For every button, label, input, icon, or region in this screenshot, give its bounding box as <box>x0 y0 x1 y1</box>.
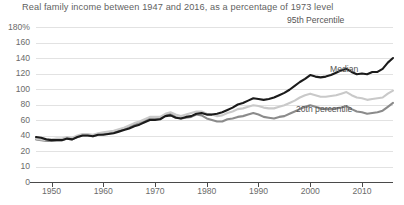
line-median <box>36 91 393 141</box>
y-axis-label: 10 <box>0 161 30 171</box>
x-axis-label: 1990 <box>238 186 278 196</box>
x-axis-label: 1980 <box>187 186 227 196</box>
series-label-20th-percentile: 20th percentile <box>296 104 352 114</box>
y-axis-label: 140 <box>0 53 30 63</box>
x-axis-label: 1960 <box>83 186 123 196</box>
series-label-median: Median <box>330 64 358 74</box>
y-axis-label: 40 <box>0 130 30 140</box>
y-axis-label: 180% <box>0 22 30 32</box>
y-axis-label: 20 <box>0 146 30 156</box>
chart-title: Real family income between 1947 and 2016… <box>22 2 334 12</box>
y-axis-label: 0 <box>0 177 30 187</box>
y-axis-label: 100 <box>0 84 30 94</box>
x-axis-label: 2010 <box>342 186 382 196</box>
chart-container: Real family income between 1947 and 2016… <box>0 0 404 205</box>
x-axis-label: 1950 <box>32 186 72 196</box>
x-axis-label: 2000 <box>290 186 330 196</box>
y-axis-label: 120 <box>0 68 30 78</box>
y-axis-label: 60 <box>0 115 30 125</box>
series-label-95th-percentile: 95th Percentile <box>287 15 344 25</box>
x-axis-label: 1970 <box>135 186 175 196</box>
y-axis-label: 80 <box>0 99 30 109</box>
x-axis-line <box>30 182 393 183</box>
y-axis-label: 160 <box>0 37 30 47</box>
